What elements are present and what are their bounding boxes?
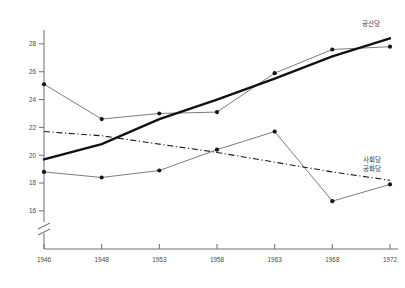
x-tick-label: 1953: [152, 256, 167, 263]
y-tick-label: 24: [29, 96, 37, 103]
series-path: [44, 132, 390, 202]
data-point-marker: [388, 182, 392, 186]
x-tick-label: 1958: [210, 256, 225, 263]
data-point-marker: [215, 148, 219, 152]
legend-label-socialist: 사회당: [363, 155, 381, 164]
series-path: [44, 132, 390, 181]
data-point-marker: [273, 71, 277, 75]
x-tick-label: 1968: [325, 256, 340, 263]
y-tick-label: 18: [29, 179, 37, 186]
y-tick-label: 16: [29, 207, 37, 214]
y-axis: 16182022242628: [29, 30, 50, 249]
data-point-marker: [330, 47, 334, 51]
data-point-marker: [330, 199, 334, 203]
legend-label-communist: 공산당: [362, 19, 380, 27]
x-tick-group: 1946194819531958196319681972: [37, 244, 398, 263]
y-tick-label: 28: [29, 40, 37, 47]
data-point-marker: [157, 111, 161, 115]
x-tick-label: 1948: [95, 256, 110, 263]
y-tick-label: 20: [29, 152, 37, 159]
chart-container: 16182022242628 1946194819531958196319681…: [0, 0, 405, 288]
data-point-marker: [42, 82, 46, 86]
x-tick-label: 1946: [37, 256, 52, 263]
y-tick-label: 26: [29, 68, 37, 75]
data-point-marker: [273, 129, 277, 133]
data-point-marker: [388, 45, 392, 49]
y-tick-label: 22: [29, 124, 37, 131]
data-point-marker: [215, 110, 219, 114]
x-axis: 1946194819531958196319681972: [37, 244, 398, 263]
data-point-marker: [42, 170, 46, 174]
legend-label-republican: 공화당: [363, 164, 381, 173]
series-path: [44, 47, 390, 119]
x-tick-label: 1963: [268, 256, 283, 263]
data-point-marker: [100, 175, 104, 179]
data-point-marker: [100, 117, 104, 121]
series-layer: [42, 38, 392, 203]
x-tick-label: 1972: [383, 256, 398, 263]
series-path: [44, 38, 390, 159]
line-chart: 16182022242628 1946194819531958196319681…: [0, 0, 405, 288]
data-point-marker: [157, 168, 161, 172]
y-tick-group: 16182022242628: [29, 40, 44, 214]
